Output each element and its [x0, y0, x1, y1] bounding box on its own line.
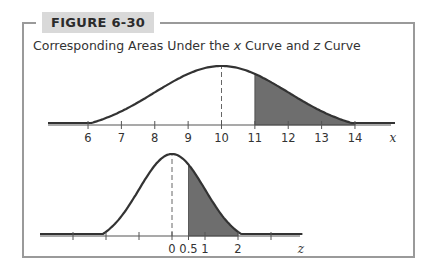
z-curve-chart: 00.512z: [40, 154, 305, 256]
tick-label: 6: [84, 131, 91, 145]
tick-label: 0.5: [179, 242, 197, 256]
axis-label: x: [390, 131, 397, 145]
tick-label: 9: [184, 131, 191, 145]
normal-curve: [40, 154, 302, 234]
tick-label: 8: [151, 131, 158, 145]
tick-label: 2: [234, 242, 241, 256]
x-curve-chart: 67891011121314x: [48, 66, 397, 145]
charts: 67891011121314x 00.512z: [0, 0, 431, 275]
tick-label: 7: [118, 131, 125, 145]
tick-label: 10: [214, 131, 229, 145]
tick-label: 12: [281, 131, 296, 145]
axis-label: z: [297, 242, 305, 256]
tick-label: 1: [201, 242, 208, 256]
tick-label: 0: [168, 242, 175, 256]
tick-label: 11: [248, 131, 263, 145]
tick-label: 14: [348, 131, 363, 145]
tick-label: 13: [314, 131, 329, 145]
